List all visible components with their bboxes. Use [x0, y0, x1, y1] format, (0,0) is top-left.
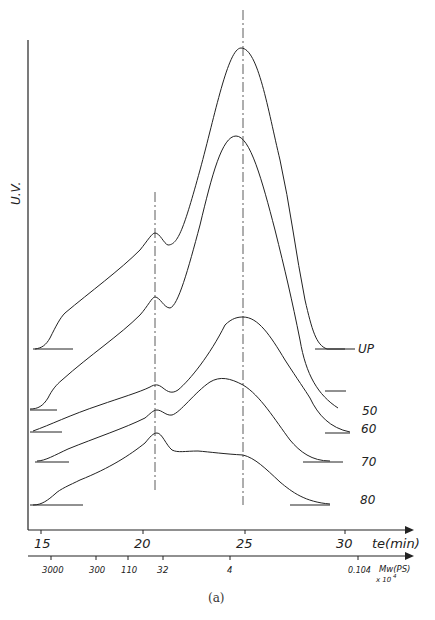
curve-50 [30, 136, 338, 409]
curve-60 [33, 317, 350, 432]
y-axis-label: U.V. [9, 182, 23, 205]
mw-axis-exponent: 4 [393, 573, 397, 579]
mw-tick-4: 4 [227, 565, 232, 575]
x-tick-20: 20 [134, 536, 151, 551]
curve-80 [33, 433, 330, 505]
series-label-80: 80 [360, 493, 376, 507]
mw-axis-multiplier: x 10 [375, 576, 392, 584]
series-label-50: 50 [362, 404, 378, 418]
series-label-up: UP [358, 342, 375, 356]
x-axis-arrow-icon [405, 526, 414, 534]
figure-caption: (a) [208, 591, 225, 605]
x-tick-15: 15 [34, 536, 51, 551]
chromatogram-chart: U.V. 15 20 25 30 te(min) 3000 300 110 32… [0, 0, 435, 620]
curve-70 [37, 378, 330, 461]
x-axis-label: te(min) [372, 536, 420, 551]
curve-up [35, 48, 345, 349]
x-tick-30: 30 [336, 536, 353, 551]
series-label-60: 60 [361, 422, 377, 436]
mw-axis-arrow-icon [405, 552, 414, 560]
x-tick-25: 25 [236, 536, 253, 551]
mw-tick-300: 300 [89, 565, 105, 575]
mw-tick-3000: 3000 [42, 565, 64, 575]
mw-tick-110: 110 [121, 565, 137, 575]
mw-tick-32: 32 [157, 565, 169, 575]
mw-tick-0104: 0.104 [348, 566, 371, 575]
series-label-70: 70 [361, 455, 377, 469]
